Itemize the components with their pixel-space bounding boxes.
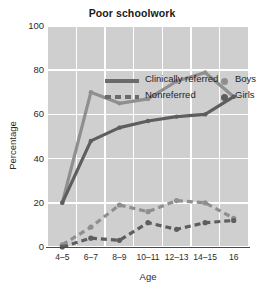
x-tick-label: 10–11 bbox=[136, 252, 159, 262]
x-axis-rule bbox=[46, 247, 250, 248]
chart-figure: Poor schoolwork Percentage 020406080100 … bbox=[0, 0, 264, 292]
legend-dot-girls bbox=[221, 94, 228, 101]
legend-row-clinically-referred: Clinically referred Boys bbox=[105, 73, 264, 88]
x-tick-label: 14–15 bbox=[193, 252, 217, 262]
data-point-marker bbox=[117, 125, 121, 129]
y-tick-label: 20 bbox=[4, 197, 44, 208]
legend-dot-boys bbox=[221, 78, 228, 85]
x-tick-label: 8–9 bbox=[112, 252, 126, 262]
data-point-marker bbox=[203, 112, 207, 116]
data-point-marker bbox=[60, 201, 64, 205]
data-point-marker bbox=[174, 114, 178, 118]
legend-label-boys: Boys bbox=[235, 73, 256, 84]
chart-legend: Clinically referred Boys Nonreferred Gir… bbox=[105, 73, 264, 105]
data-point-marker bbox=[117, 202, 122, 207]
data-point-marker bbox=[203, 200, 208, 205]
y-axis-tick-labels: 020406080100 bbox=[0, 0, 44, 292]
data-point-marker bbox=[117, 238, 122, 243]
data-point-marker bbox=[89, 90, 93, 94]
data-point-marker bbox=[88, 225, 93, 230]
x-tick-label: 12–13 bbox=[165, 252, 189, 262]
legend-solid-line-swatch bbox=[105, 79, 139, 83]
legend-label-nonreferred: Nonreferred bbox=[145, 89, 196, 100]
legend-label-girls: Girls bbox=[235, 89, 255, 100]
data-point-marker bbox=[89, 139, 93, 143]
legend-row-nonreferred: Nonreferred Girls bbox=[105, 89, 264, 104]
legend-dashed-line-swatch bbox=[105, 95, 139, 99]
y-tick-label: 60 bbox=[4, 108, 44, 119]
x-axis-title: Age bbox=[48, 271, 248, 282]
data-point-marker bbox=[145, 220, 150, 225]
data-point-marker bbox=[203, 220, 208, 225]
data-point-marker bbox=[174, 227, 179, 232]
y-tick-label: 0 bbox=[4, 241, 44, 252]
y-tick-label: 100 bbox=[4, 20, 44, 31]
x-tick-label: 16 bbox=[229, 252, 238, 262]
series-line bbox=[62, 97, 233, 203]
legend-label-clinically-referred: Clinically referred bbox=[145, 73, 218, 84]
data-point-marker bbox=[145, 209, 150, 214]
x-tick-label: 6–7 bbox=[84, 252, 98, 262]
data-point-marker bbox=[88, 236, 93, 241]
y-tick-label: 40 bbox=[4, 153, 44, 164]
y-tick-label: 80 bbox=[4, 64, 44, 75]
data-point-marker bbox=[174, 198, 179, 203]
x-tick-label: 4–5 bbox=[55, 252, 69, 262]
data-point-marker bbox=[231, 218, 236, 223]
series-lines bbox=[48, 26, 248, 247]
data-point-marker bbox=[146, 119, 150, 123]
plot-area: Clinically referred Boys Nonreferred Gir… bbox=[48, 26, 248, 247]
